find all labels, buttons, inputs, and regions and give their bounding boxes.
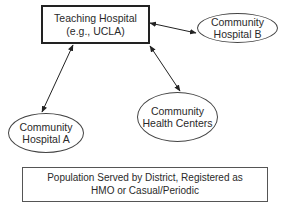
community-hospital-a-node: Community Hospital A xyxy=(8,113,84,153)
arrow-teaching-to-hospital-a xyxy=(42,45,73,112)
community-hospital-b-label-line1: Community xyxy=(211,16,264,29)
arrow-teaching-to-health-centers xyxy=(150,46,180,91)
community-health-centers-label-line1: Community xyxy=(151,105,204,118)
teaching-hospital-label-line2: (e.g., UCLA) xyxy=(66,25,124,38)
teaching-hospital-node: Teaching Hospital (e.g., UCLA) xyxy=(41,5,150,44)
community-health-centers-node: Community Health Centers xyxy=(137,92,218,142)
population-served-node: Population Served by District, Registere… xyxy=(22,167,268,202)
population-label-line2: HMO or Casual/Periodic xyxy=(91,185,199,198)
teaching-hospital-label-line1: Teaching Hospital xyxy=(54,12,137,25)
diagram-canvas: Teaching Hospital (e.g., UCLA) Community… xyxy=(0,0,281,208)
community-hospital-a-label-line1: Community xyxy=(19,121,72,134)
community-hospital-b-label-line2: Hospital B xyxy=(214,28,262,41)
population-label-line1: Population Served by District, Registere… xyxy=(47,172,243,185)
community-hospital-b-node: Community Hospital B xyxy=(197,13,278,43)
arrow-teaching-to-hospital-b xyxy=(150,23,196,33)
community-health-centers-label-line2: Health Centers xyxy=(142,117,212,130)
community-hospital-a-label-line2: Hospital A xyxy=(22,133,69,146)
